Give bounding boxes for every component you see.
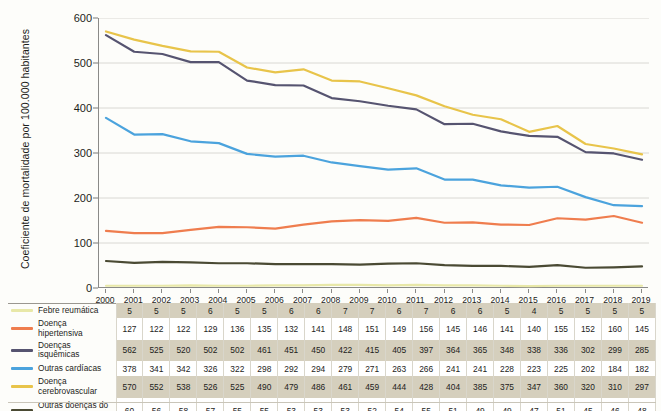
table-cell: 490 [251, 376, 278, 398]
y-tick-label: 300 [42, 147, 92, 159]
table-cell: 182 [628, 361, 655, 376]
table-cell: 338 [521, 340, 548, 362]
series-line [106, 216, 642, 233]
table-cell: 360 [548, 376, 575, 398]
x-tick-mark [302, 289, 303, 293]
table-cell: 145 [628, 318, 655, 340]
table-cell: 322 [224, 361, 251, 376]
table-cell: 7 [413, 303, 440, 318]
table-cell: 53 [278, 398, 305, 411]
table-row: Doença cerebrovascular570552538526525490… [8, 376, 656, 398]
table-cell: 151 [359, 318, 386, 340]
table-cell: 7 [359, 303, 386, 318]
table-cell: 136 [224, 318, 251, 340]
legend-cell: Febre reumática [8, 303, 116, 318]
table-cell: 141 [494, 318, 521, 340]
data-table-region: Febre reumática55565566776766545555Doenç… [8, 303, 656, 403]
table-cell: 57 [197, 398, 224, 411]
table-cell: 279 [332, 361, 359, 376]
table-cell: 5 [628, 303, 655, 318]
table-cell: 5 [574, 303, 601, 318]
chart-page: Coeficiente de mortalidade por 100.000 h… [0, 0, 661, 411]
table-cell: 336 [548, 340, 575, 362]
table-cell: 405 [386, 340, 413, 362]
table-cell: 156 [413, 318, 440, 340]
table-cell: 285 [628, 340, 655, 362]
x-tick-mark [359, 289, 360, 293]
y-axis-label: Coeficiente de mortalidade por 100.000 h… [14, 18, 36, 280]
series-line [106, 261, 642, 268]
table-cell: 160 [601, 318, 628, 340]
table-cell: 461 [332, 376, 359, 398]
table-cell: 56 [143, 398, 170, 411]
table-cell: 298 [251, 361, 278, 376]
table-cell: 47 [521, 398, 548, 411]
table-cell: 7 [332, 303, 359, 318]
table-cell: 342 [170, 361, 197, 376]
table-cell: 428 [413, 376, 440, 398]
table-cell: 526 [197, 376, 224, 398]
table-cell: 538 [170, 376, 197, 398]
table-cell: 223 [521, 361, 548, 376]
table-cell: 122 [143, 318, 170, 340]
legend-cell: Outras doenças do aparelho circulatório [8, 398, 116, 411]
x-tick-mark [444, 289, 445, 293]
table-row: Outras cardíacas378341342326322298292294… [8, 361, 656, 376]
table-cell: 52 [359, 398, 386, 411]
table-cell: 225 [548, 361, 575, 376]
table-cell: 6 [440, 303, 467, 318]
table-cell: 5 [170, 303, 197, 318]
table-body: Febre reumática55565566776766545555Doenç… [8, 303, 656, 411]
table-cell: 525 [224, 376, 251, 398]
table-cell: 55 [224, 398, 251, 411]
table-row: Febre reumática55565566776766545555 [8, 303, 656, 318]
x-tick-mark [161, 289, 162, 293]
table-cell: 365 [467, 340, 494, 362]
table-cell: 5 [251, 303, 278, 318]
table-cell: 55 [251, 398, 278, 411]
table-cell: 341 [143, 361, 170, 376]
table-cell: 132 [278, 318, 305, 340]
table-cell: 552 [143, 376, 170, 398]
legend-cell: Outras cardíacas [8, 361, 116, 376]
table-cell: 5 [601, 303, 628, 318]
table-cell: 292 [278, 361, 305, 376]
y-tick-label: 200 [42, 192, 92, 204]
y-tick-label: 0 [42, 282, 92, 294]
line-chart: Coeficiente de mortalidade por 100.000 h… [0, 0, 661, 300]
series-line [106, 285, 642, 286]
table-cell: 146 [467, 318, 494, 340]
table-cell: 51 [548, 398, 575, 411]
legend-swatch-icon [11, 309, 33, 312]
table-bottom-rule [8, 402, 656, 403]
table-cell: 302 [574, 340, 601, 362]
table-cell: 148 [332, 318, 359, 340]
legend-cell: Doença cerebrovascular [8, 376, 116, 398]
table-cell: 46 [601, 398, 628, 411]
table-cell: 266 [413, 361, 440, 376]
table-cell: 397 [413, 340, 440, 362]
table-cell: 415 [359, 340, 386, 362]
legend-label: Doenças isquêmicas [38, 341, 114, 361]
data-table: Febre reumática55565566776766545555Doenç… [8, 303, 656, 411]
table-cell: 364 [440, 340, 467, 362]
x-tick-mark [641, 289, 642, 293]
legend-label: Doença cerebrovascular [38, 377, 114, 397]
x-tick-mark [500, 289, 501, 293]
x-tick-mark [133, 289, 134, 293]
table-cell: 145 [440, 318, 467, 340]
x-tick-mark [105, 289, 106, 293]
table-cell: 55 [413, 398, 440, 411]
table-cell: 51 [440, 398, 467, 411]
series-line [106, 118, 642, 206]
table-cell: 228 [494, 361, 521, 376]
table-cell: 58 [170, 398, 197, 411]
table-cell: 451 [278, 340, 305, 362]
table-cell: 294 [305, 361, 332, 376]
x-tick-mark [331, 289, 332, 293]
table-cell: 127 [116, 318, 143, 340]
table-cell: 562 [116, 340, 143, 362]
table-cell: 122 [170, 318, 197, 340]
table-cell: 6 [467, 303, 494, 318]
table-cell: 184 [601, 361, 628, 376]
